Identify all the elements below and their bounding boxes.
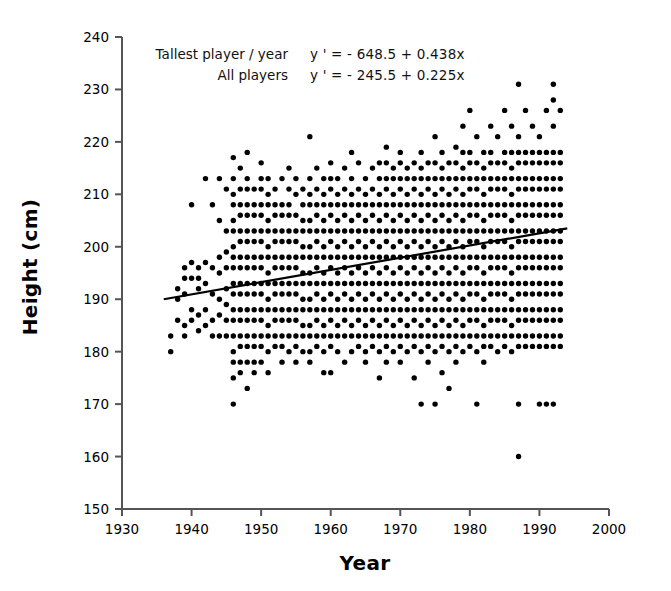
data-point (502, 291, 507, 296)
data-point (412, 228, 417, 233)
data-point (412, 307, 417, 312)
data-point (356, 255, 361, 260)
x-tick-label: 1930 (92, 521, 152, 537)
data-point (558, 213, 563, 218)
data-point (481, 281, 486, 286)
data-point (231, 291, 236, 296)
data-point (558, 160, 563, 165)
data-point (453, 359, 458, 364)
data-point (516, 186, 521, 191)
data-point (293, 344, 298, 349)
data-point (418, 150, 423, 155)
data-point (286, 202, 291, 207)
data-point (446, 255, 451, 260)
fit-line (164, 228, 568, 299)
data-point (412, 202, 417, 207)
data-point (530, 176, 535, 181)
data-point (279, 307, 284, 312)
data-point (405, 176, 410, 181)
annotation-equation: y ' = - 245.5 + 0.225x (310, 65, 465, 86)
data-point (342, 318, 347, 323)
data-point (363, 333, 368, 338)
data-point (467, 186, 472, 191)
data-point (384, 228, 389, 233)
data-point (196, 276, 201, 281)
data-point (272, 281, 277, 286)
data-point (224, 333, 229, 338)
data-point (516, 150, 521, 155)
data-point (238, 291, 243, 296)
data-point (481, 297, 486, 302)
data-point (363, 218, 368, 223)
y-tick-label: 170 (65, 396, 109, 412)
annotation-row: All players y ' = - 245.5 + 0.225x (136, 65, 465, 86)
data-point (481, 192, 486, 197)
scatter-plot-figure: 1501601701801902002102202302401930194019… (0, 0, 671, 591)
data-point (377, 255, 382, 260)
data-point (377, 192, 382, 197)
data-point (272, 202, 277, 207)
data-point (286, 281, 291, 286)
data-point (551, 291, 556, 296)
data-point (258, 344, 263, 349)
data-point (342, 281, 347, 286)
data-point (544, 255, 549, 260)
data-point (516, 176, 521, 181)
data-point (446, 297, 451, 302)
data-point (342, 333, 347, 338)
data-point (286, 333, 291, 338)
data-point (537, 213, 542, 218)
x-tick-label: 1990 (509, 521, 569, 537)
data-point (286, 291, 291, 296)
data-point (432, 228, 437, 233)
data-point (272, 239, 277, 244)
data-point (245, 213, 250, 218)
data-point (537, 150, 542, 155)
data-point (245, 202, 250, 207)
data-point (523, 202, 528, 207)
data-point (558, 176, 563, 181)
data-point (432, 270, 437, 275)
data-point (398, 186, 403, 191)
x-tick-label: 1940 (162, 521, 222, 537)
data-point (523, 108, 528, 113)
data-point (523, 291, 528, 296)
y-tick-label: 150 (65, 501, 109, 517)
data-point (558, 186, 563, 191)
y-tick-label: 230 (65, 81, 109, 97)
annotation-block: Tallest player / year y ' = - 648.5 + 0.… (136, 44, 465, 86)
data-point (432, 176, 437, 181)
data-point (356, 228, 361, 233)
data-point (384, 176, 389, 181)
data-point (418, 244, 423, 249)
data-point (300, 323, 305, 328)
data-point (432, 307, 437, 312)
data-point (509, 349, 514, 354)
data-point (321, 176, 326, 181)
y-axis-title: Height (cm) (18, 167, 42, 367)
data-point (342, 239, 347, 244)
data-point (328, 281, 333, 286)
data-point (418, 401, 423, 406)
data-point (453, 281, 458, 286)
data-point (196, 328, 201, 333)
data-point (251, 255, 256, 260)
data-point (398, 213, 403, 218)
data-point (398, 160, 403, 165)
data-point (488, 186, 493, 191)
data-point (321, 333, 326, 338)
data-point (370, 318, 375, 323)
data-point (245, 228, 250, 233)
data-point (342, 186, 347, 191)
y-tick-label: 180 (65, 344, 109, 360)
data-point (377, 270, 382, 275)
y-tick-label: 160 (65, 449, 109, 465)
data-point (516, 401, 521, 406)
data-point (516, 333, 521, 338)
data-point (453, 318, 458, 323)
data-point (439, 281, 444, 286)
data-point (446, 270, 451, 275)
data-point (307, 323, 312, 328)
data-point (314, 265, 319, 270)
data-point (418, 176, 423, 181)
